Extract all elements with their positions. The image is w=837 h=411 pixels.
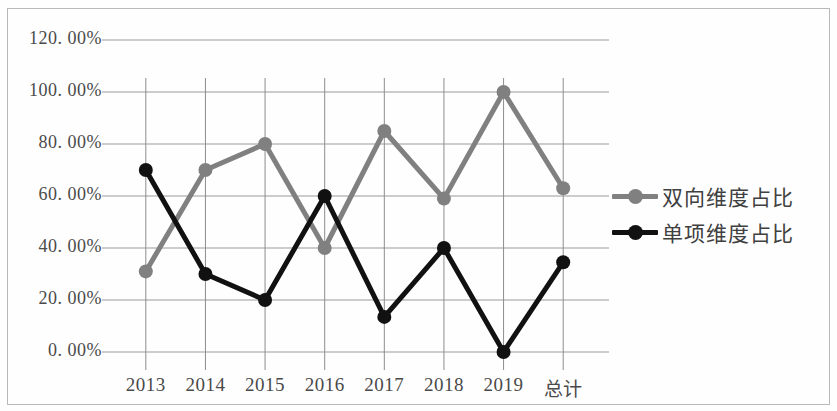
chart-screenshot: 0. 00%20. 00%40. 00%60. 00%80. 00%100. 0… [0, 0, 837, 411]
data-point-marker [139, 163, 153, 177]
y-tick-label-40: 40. 00% [20, 236, 102, 257]
data-point-marker [258, 293, 272, 307]
data-point-marker [198, 267, 212, 281]
y-tick-label-120: 120. 00% [20, 28, 102, 49]
data-point-marker [377, 310, 391, 324]
legend-line-marker-icon [612, 223, 658, 241]
series-polylines [146, 92, 563, 352]
category-drop-lines [146, 78, 563, 370]
data-point-marker [497, 85, 511, 99]
y-tick-label-60: 60. 00% [20, 184, 102, 205]
legend-item-2[interactable]: 单项维度占比 [612, 214, 827, 250]
data-point-marker [258, 137, 272, 151]
chart-legend: 双向维度占比单项维度占比 [612, 178, 827, 250]
legend-label: 双向维度占比 [662, 181, 794, 211]
data-point-marker [556, 181, 570, 195]
x-tick-label-总计: 总计 [523, 374, 603, 401]
data-point-marker [318, 241, 332, 255]
series-markers [139, 85, 570, 359]
y-tick-label-20: 20. 00% [20, 288, 102, 309]
data-point-marker [437, 192, 451, 206]
data-point-marker [318, 189, 332, 203]
legend-item-1[interactable]: 双向维度占比 [612, 178, 827, 214]
data-point-marker [556, 255, 570, 269]
data-point-marker [437, 241, 451, 255]
data-point-marker [139, 264, 153, 278]
series-line-1 [146, 92, 563, 271]
data-point-marker [497, 345, 511, 359]
series-line-2 [146, 170, 563, 352]
data-point-marker [377, 124, 391, 138]
y-tick-label-0: 0. 00% [20, 340, 102, 361]
legend-line-marker-icon [612, 187, 658, 205]
legend-label: 单项维度占比 [662, 217, 794, 247]
data-point-marker [198, 163, 212, 177]
y-tick-label-100: 100. 00% [20, 80, 102, 101]
y-tick-label-80: 80. 00% [20, 132, 102, 153]
